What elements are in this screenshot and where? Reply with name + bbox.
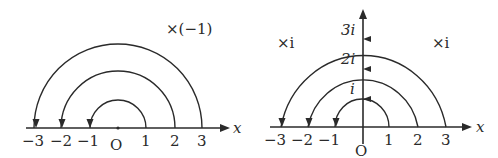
tick-label-3: 3 (441, 131, 451, 149)
tick-label-neg1: −1 (77, 132, 99, 150)
arrow-head-icon (333, 118, 340, 127)
x-axis-label: x (476, 118, 485, 136)
arrow-head-icon (87, 119, 94, 128)
tick-label-1: 1 (141, 132, 151, 150)
tick-label-2: 2 (413, 131, 423, 149)
arc-3-to-neg3 (34, 44, 202, 128)
origin-label: O (355, 142, 367, 158)
arrow-head-icon (306, 118, 313, 127)
x-axis-arrow-icon (462, 123, 472, 131)
right-diagram: i 2i 3i −3 −2 −1 O 1 2 3 x ×i ×i (264, 9, 485, 158)
arrow-head-icon (279, 118, 286, 127)
arrow-head-icon (59, 119, 66, 128)
arc-1-to-neg1 (90, 100, 146, 128)
tick-label-1: 1 (384, 131, 394, 149)
tick-label-2: 2 (170, 132, 180, 150)
x-axis-label: x (233, 119, 242, 137)
origin-dot (116, 126, 119, 129)
operation-label-right: ×i (432, 34, 450, 52)
arrow-head-icon (363, 66, 371, 72)
tick-label-neg2: −2 (50, 132, 72, 150)
origin-label: O (110, 136, 122, 154)
operation-label-left: ×i (277, 34, 295, 52)
complex-multiplication-diagrams: −3 −2 −1 O 1 2 3 x ×(−1) i 2i 3i (0, 0, 498, 158)
imag-label-i: i (350, 80, 355, 98)
tick-label-neg3: −3 (22, 132, 44, 150)
arc-1-via-i (335, 99, 389, 127)
imag-label-2i: 2i (340, 50, 356, 68)
imag-label-3i: 3i (341, 21, 356, 39)
operation-label: ×(−1) (166, 20, 212, 38)
left-diagram: −3 −2 −1 O 1 2 3 x ×(−1) (22, 20, 242, 154)
arrow-head-icon (363, 96, 371, 102)
arrow-head-icon (363, 36, 371, 42)
tick-label-neg2: −2 (291, 131, 313, 149)
tick-label-neg1: −1 (318, 131, 340, 149)
imaginary-axis-arrow-icon (359, 9, 367, 19)
tick-label-neg3: −3 (264, 131, 286, 149)
tick-label-3: 3 (197, 132, 207, 150)
x-axis-arrow-icon (220, 124, 230, 132)
